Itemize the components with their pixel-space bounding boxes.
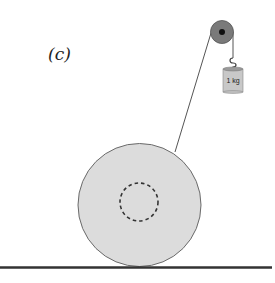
large-disk	[78, 144, 201, 267]
diagram-canvas: (c) 1 kg	[0, 0, 275, 283]
pulley-hub	[219, 29, 225, 35]
physics-diagram: 1 kg	[0, 0, 275, 283]
weight-1kg: 1 kg	[223, 67, 243, 94]
mass-label: 1 kg	[226, 77, 239, 85]
string-to-pulley	[175, 33, 211, 152]
pulley	[211, 21, 234, 44]
